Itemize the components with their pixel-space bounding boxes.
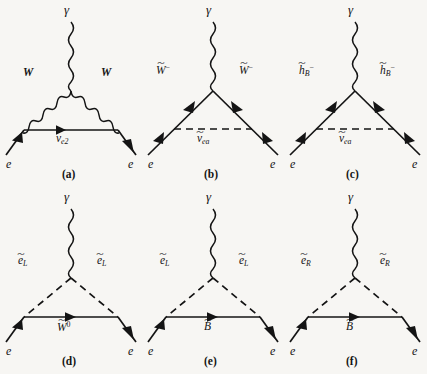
photon-label: γ — [348, 3, 353, 16]
diagram-d-graphics — [0, 187, 142, 374]
outgoing-electron-label: e — [270, 345, 275, 357]
outgoing-electron-label: e — [128, 158, 133, 170]
left-w-wavy-line — [23, 91, 71, 133]
outgoing-electron-label: e — [412, 158, 417, 170]
incoming-electron-arrow — [295, 132, 306, 144]
diagram-c-graphics — [284, 0, 427, 187]
diagram-panel-c: γ ~hB− ~hB− ~νea e e (c) — [284, 0, 426, 187]
photon-label: γ — [64, 3, 69, 16]
incoming-electron-label: e — [290, 158, 295, 170]
incoming-electron-label: e — [148, 158, 153, 170]
left-selectron-dashed-line — [166, 278, 213, 317]
diagram-b-graphics — [142, 0, 284, 187]
outgoing-electron-arrow — [264, 326, 276, 340]
right-w-wavy-line — [71, 91, 119, 133]
incoming-electron-label: e — [148, 345, 153, 357]
left-selectron-dashed-line — [24, 278, 71, 317]
photon-label: γ — [206, 190, 211, 203]
right-propagator-label: ~eL — [239, 255, 248, 268]
left-chargino-arrow — [183, 101, 195, 113]
left-propagator-label: W — [23, 67, 33, 79]
diagram-panel-f: γ ~eR ~eR ~B e e (f) — [284, 187, 426, 374]
photon-label: γ — [64, 190, 69, 203]
diagram-f-graphics — [284, 187, 427, 374]
left-propagator-label: ~W− — [156, 64, 170, 76]
panel-caption-e: (e) — [204, 356, 217, 368]
panel-caption-d: (d) — [62, 356, 76, 368]
panel-caption-b: (b) — [204, 169, 218, 181]
incoming-electron-label: e — [6, 345, 11, 357]
incoming-electron-arrow — [153, 132, 164, 144]
right-selectron-dashed-line — [71, 278, 118, 317]
diagram-a-graphics — [0, 0, 142, 187]
right-chargino-line — [213, 91, 278, 155]
photon-wavy-line — [211, 22, 216, 91]
right-propagator-label: ~W− — [239, 64, 253, 76]
outgoing-electron-label: e — [412, 345, 417, 357]
diagram-panel-b: γ ~W− ~W− ~νea e e (b) — [142, 0, 284, 187]
panel-caption-c: (c) — [346, 169, 359, 181]
right-propagator-label: ~hB− — [380, 64, 395, 78]
right-selectron-dashed-line — [213, 278, 260, 317]
base-propagator-label: ~W0 — [57, 321, 71, 333]
diagram-e-graphics — [142, 187, 284, 374]
photon-label: γ — [348, 190, 353, 203]
right-selectron-dashed-line — [355, 278, 402, 317]
incoming-electron-arrow — [12, 319, 23, 330]
left-selectron-dashed-line — [308, 278, 355, 317]
diagram-panel-a: γ W W νe2 e e (a) — [0, 0, 142, 187]
outgoing-electron-arrow — [404, 132, 415, 144]
right-chargino-arrow — [231, 101, 243, 113]
photon-label: γ — [206, 3, 211, 16]
left-higgsino-arrow — [325, 101, 337, 113]
incoming-electron-arrow — [12, 132, 23, 143]
photon-wavy-line — [353, 209, 358, 278]
right-propagator-label: ~eL — [97, 255, 106, 268]
photon-wavy-line — [211, 209, 216, 278]
right-propagator-label: ~eR — [380, 255, 390, 268]
right-higgsino-line — [355, 91, 420, 155]
outgoing-electron-arrow — [406, 326, 418, 340]
photon-wavy-line — [69, 22, 74, 91]
incoming-electron-arrow — [296, 319, 307, 330]
base-propagator-label: ~νea — [339, 133, 351, 146]
panel-caption-f: (f) — [346, 356, 358, 368]
outgoing-electron-arrow — [122, 326, 134, 340]
diagram-panel-d: γ ~eL ~eL ~W0 e e (d) — [0, 187, 142, 374]
outgoing-electron-arrow — [122, 139, 134, 153]
incoming-electron-label: e — [6, 158, 11, 170]
incoming-electron-label: e — [290, 345, 295, 357]
feynman-diagram-figure: γ W W νe2 e e (a) γ ~W− ~W− ~νea e e (b) — [0, 0, 427, 374]
base-propagator-label: ~B — [204, 321, 211, 333]
photon-wavy-line — [353, 22, 358, 91]
right-propagator-label: W — [101, 67, 111, 79]
incoming-electron-arrow — [154, 319, 165, 330]
outgoing-electron-arrow — [262, 132, 273, 144]
panel-caption-a: (a) — [62, 169, 75, 181]
right-higgsino-arrow — [373, 101, 385, 113]
photon-wavy-line — [69, 209, 74, 278]
base-propagator-label: νe2 — [56, 133, 68, 146]
outgoing-electron-label: e — [270, 158, 275, 170]
left-propagator-label: ~eR — [301, 255, 311, 268]
base-propagator-label: ~B — [346, 321, 353, 333]
base-propagator-label: ~νea — [197, 133, 209, 146]
left-propagator-label: ~eL — [18, 255, 27, 268]
outgoing-electron-label: e — [128, 345, 133, 357]
diagram-panel-e: γ ~eL ~eL ~B e e (e) — [142, 187, 284, 374]
left-propagator-label: ~hB− — [299, 64, 314, 78]
left-propagator-label: ~eL — [160, 255, 169, 268]
